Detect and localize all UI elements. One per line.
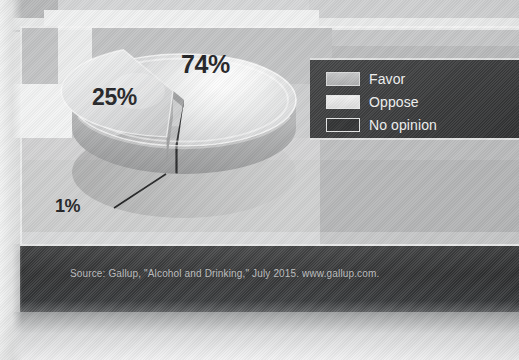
legend-label-oppose: Oppose bbox=[369, 94, 419, 110]
chart-screenshot: Favor Oppose No opinion bbox=[0, 0, 519, 360]
source-note: Source: Gallup, "Alcohol and Drinking," … bbox=[70, 268, 379, 279]
legend-panel: Favor Oppose No opinion bbox=[310, 58, 519, 140]
legend-item-oppose[interactable]: Oppose bbox=[326, 90, 519, 113]
legend-swatch-no-opinion-icon bbox=[326, 118, 360, 132]
pie-label-favor: 74% bbox=[181, 50, 230, 79]
pie-slice-no-opinion-wall bbox=[175, 146, 177, 174]
left-fade bbox=[0, 0, 22, 360]
background-block-2 bbox=[58, 0, 309, 10]
legend-swatch-favor-icon bbox=[326, 72, 360, 86]
legend-label-no-opinion: No opinion bbox=[369, 117, 437, 133]
legend-label-favor: Favor bbox=[369, 71, 405, 87]
legend-item-favor[interactable]: Favor bbox=[326, 67, 519, 90]
source-band: Source: Gallup, "Alcohol and Drinking," … bbox=[20, 244, 519, 316]
legend-swatch-oppose-icon bbox=[326, 95, 360, 109]
legend-item-no-opinion[interactable]: No opinion bbox=[326, 113, 519, 136]
pie-label-oppose: 25% bbox=[92, 84, 137, 111]
pie-label-no-opinion: 1% bbox=[55, 196, 80, 217]
background-block-4 bbox=[20, 26, 58, 84]
bottom-fade bbox=[0, 312, 519, 360]
